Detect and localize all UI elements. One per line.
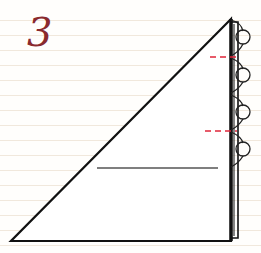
folding-diagram — [0, 0, 261, 253]
triangle-outline — [11, 19, 231, 241]
